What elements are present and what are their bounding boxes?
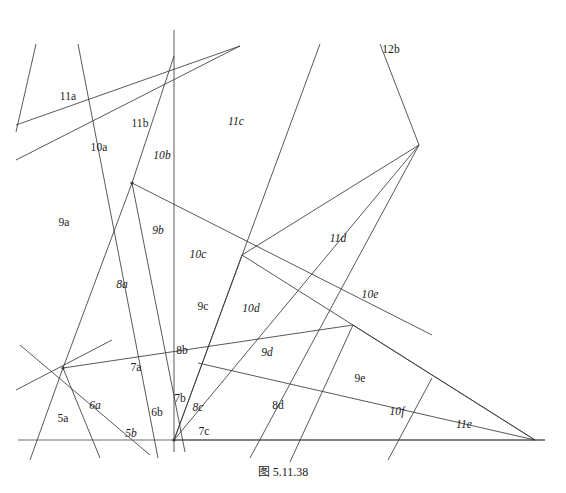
diagram-line	[198, 363, 535, 440]
region-label-10b: 10b	[153, 150, 171, 162]
diagram-line	[63, 183, 132, 368]
region-label-8a: 8a	[116, 279, 128, 291]
diagram-vertex	[61, 366, 64, 369]
region-label-11d: 11d	[330, 233, 347, 245]
region-label-9b: 9b	[152, 225, 164, 237]
region-label-5a: 5a	[57, 413, 68, 425]
region-label-10e: 10e	[362, 289, 379, 301]
region-label-9c: 9c	[197, 301, 208, 313]
figure-caption: 图 5.11.38	[0, 462, 566, 480]
region-label-8d: 8d	[272, 400, 284, 412]
region-label-7a: 7a	[130, 362, 141, 374]
region-label-7b: 7b	[174, 393, 186, 405]
diagram-line	[174, 145, 419, 440]
diagram-line	[16, 46, 240, 160]
region-label-9e: 9e	[354, 373, 365, 385]
region-label-11a: 11a	[60, 91, 76, 103]
region-label-8c: 8c	[192, 402, 203, 414]
region-label-6b: 6b	[151, 407, 163, 419]
diagram-line	[290, 325, 353, 462]
region-label-8b: 8b	[176, 345, 188, 357]
region-label-10a: 10a	[91, 142, 108, 154]
region-label-11b: 11b	[131, 118, 148, 130]
region-label-12b: 12b	[382, 44, 400, 56]
diagram-line	[78, 44, 158, 458]
region-label-11e: 11e	[456, 419, 472, 431]
region-label-6a: 6a	[89, 400, 101, 412]
region-label-9d: 9d	[261, 347, 273, 359]
region-label-10f: 10f	[390, 406, 405, 418]
figure-container: 11a11b11c12b10a10b9a9b10c11d8a9c10d10e8b…	[0, 0, 566, 493]
region-label-10d: 10d	[242, 303, 260, 315]
diagram-lines	[16, 30, 545, 462]
region-label-11c: 11c	[228, 116, 244, 128]
region-label-7c: 7c	[198, 426, 209, 438]
region-label-9a: 9a	[58, 217, 69, 229]
diagram-line	[388, 378, 432, 460]
diagram-line	[132, 183, 432, 335]
region-label-10c: 10c	[190, 249, 207, 261]
diagram-vertex	[172, 438, 175, 441]
line-arrangement-diagram	[0, 0, 566, 493]
diagram-vertices	[61, 181, 175, 441]
diagram-line	[380, 44, 419, 145]
region-label-5b: 5b	[125, 428, 137, 440]
diagram-line	[63, 368, 100, 458]
diagram-line	[16, 46, 240, 125]
diagram-vertex	[130, 181, 133, 184]
diagram-line	[353, 325, 535, 440]
